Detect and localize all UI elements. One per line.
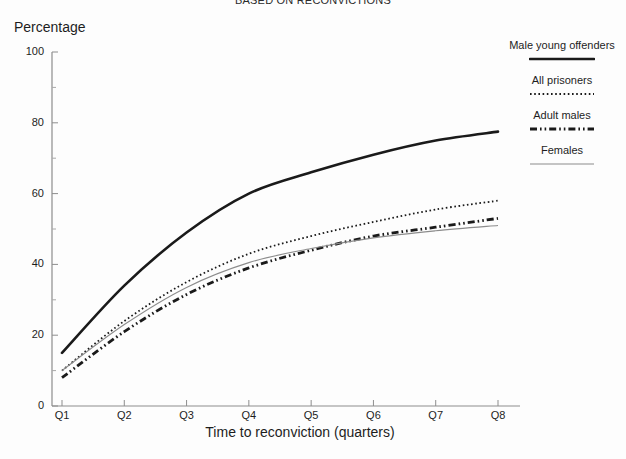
x-tick-label: Q6	[353, 409, 393, 421]
x-tick-label: Q4	[229, 409, 269, 421]
y-tick-label: 40	[10, 257, 44, 269]
legend-swatch-dash-dot-dot-icon	[498, 122, 626, 136]
legend-swatch-thin-solid-icon	[498, 157, 626, 171]
x-tick-label: Q7	[416, 409, 456, 421]
legend-entry-male-young-offenders[interactable]: Male young offenders	[498, 38, 626, 66]
legend-label: Females	[498, 143, 626, 157]
chart-legend: Male young offendersAll prisonersAdult m…	[498, 38, 626, 178]
legend-label: Male young offenders	[498, 38, 626, 52]
legend-swatch-dotted-icon	[498, 87, 626, 101]
chart-page: BASED ON RECONVICTIONS Percentage 100806…	[0, 0, 626, 459]
legend-entry-adult-males[interactable]: Adult males	[498, 108, 626, 136]
x-tick-label: Q2	[104, 409, 144, 421]
legend-entry-females[interactable]: Females	[498, 143, 626, 171]
series-line-females	[62, 225, 498, 370]
x-tick-label: Q3	[167, 409, 207, 421]
y-tick-label: 80	[10, 116, 44, 128]
legend-entry-all-prisoners[interactable]: All prisoners	[498, 73, 626, 101]
legend-label: All prisoners	[498, 73, 626, 87]
y-tick-label: 60	[10, 187, 44, 199]
y-tick-label: 20	[10, 328, 44, 340]
x-tick-label: Q1	[42, 409, 82, 421]
y-tick-label: 100	[10, 45, 44, 57]
legend-label: Adult males	[498, 108, 626, 122]
y-tick-label: 0	[10, 399, 44, 411]
data-series-group	[62, 132, 498, 378]
legend-swatch-thick-solid-icon	[498, 52, 626, 66]
series-line-all-prisoners	[62, 201, 498, 371]
series-line-male-young-offenders	[62, 132, 498, 353]
x-tick-label: Q5	[291, 409, 331, 421]
x-axis-title: Time to reconviction (quarters)	[120, 424, 480, 440]
series-line-adult-males	[62, 218, 498, 377]
x-tick-label: Q8	[478, 409, 518, 421]
